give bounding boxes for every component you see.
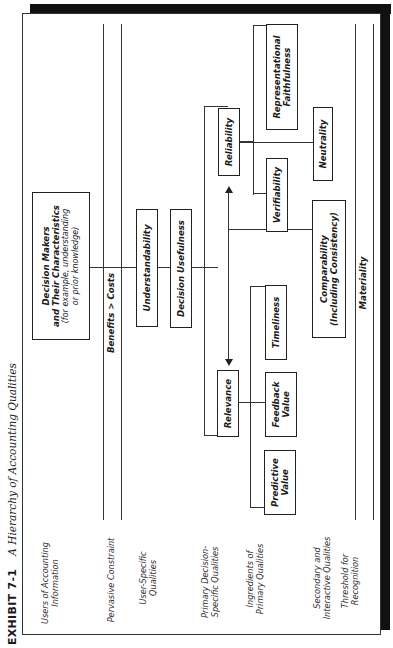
exhibit-title: A Hierarchy of Accounting Qualities — [6, 363, 18, 556]
band-line-benefits-top — [103, 24, 104, 520]
connector-neutrality — [240, 142, 313, 143]
row-label-primary: Primary Decision-Specific Qualities — [200, 542, 220, 622]
decision-makers-title2: and Their Characteristics — [51, 205, 61, 327]
row-label-threshold: Threshold for Recognition — [340, 546, 360, 616]
connector-verifiability — [253, 193, 266, 194]
band-line-materiality-bottom — [373, 24, 374, 520]
benefits-costs-label: Benefits > Costs — [106, 258, 116, 368]
node-understandability: Understandability — [136, 209, 158, 327]
node-feedback-value: Feedback Value — [265, 372, 297, 437]
row-label-user-specific: User-Specific Qualities — [138, 548, 158, 608]
row-label-ingredients: Ingredients of Primary Qualities — [245, 540, 265, 618]
band-line-materiality-top — [355, 24, 356, 520]
comparability-subtitle: (Including Consistency) — [329, 212, 339, 326]
node-verifiability: Verifiability — [266, 158, 288, 232]
connector-feedback — [239, 402, 265, 403]
node-decision-usefulness: Decision Usefulness — [170, 209, 192, 328]
connector-reliability-drop — [204, 106, 228, 107]
connector-reliability-sub — [253, 25, 254, 195]
connector-predictive — [250, 507, 264, 508]
arrow-left-icon — [225, 359, 233, 366]
connector-rep-faithfulness — [253, 25, 266, 26]
exhibit-number: EXHIBIT 7-1 — [6, 569, 19, 645]
exhibit-page: EXHIBIT 7-1 A Hierarchy of Accounting Qu… — [0, 0, 393, 648]
row-label-users: Users of Accounting Information — [40, 538, 60, 628]
node-neutrality: Neutrality — [313, 107, 333, 181]
decision-makers-subtitle: (for example, understanding or prior kno… — [61, 207, 81, 325]
decision-makers-title: Decision Makers — [41, 226, 51, 305]
comparability-title: Comparability — [319, 235, 329, 303]
node-predictive-value: Predictive Value — [264, 450, 296, 515]
materiality-label: Materiality — [358, 238, 368, 328]
row-label-secondary: Secondary and Interactive Qualities — [312, 530, 332, 626]
band-line-benefits-bottom — [121, 24, 122, 520]
node-representational-faithfulness: Representational Faithfulness — [266, 24, 298, 130]
node-timeliness: Timeliness — [265, 285, 287, 360]
connector-relevance-sub — [250, 286, 251, 508]
arrow-right-icon — [225, 186, 233, 193]
node-comparability: Comparability (Including Consistency) — [312, 200, 346, 338]
node-decision-makers: Decision Makers and Their Characteristic… — [32, 192, 90, 340]
connector-timeliness — [250, 286, 265, 287]
node-relevance: Relevance — [217, 370, 239, 437]
node-reliability: Reliability — [218, 108, 240, 176]
frame-shadow-bottom — [380, 4, 390, 630]
row-label-pervasive: Pervasive Constraint — [106, 530, 116, 630]
tradeoff-arrow-line — [228, 190, 229, 360]
exhibit-heading: EXHIBIT 7-1 A Hierarchy of Accounting Qu… — [1, 385, 15, 645]
connector-primary-branch — [204, 106, 205, 436]
